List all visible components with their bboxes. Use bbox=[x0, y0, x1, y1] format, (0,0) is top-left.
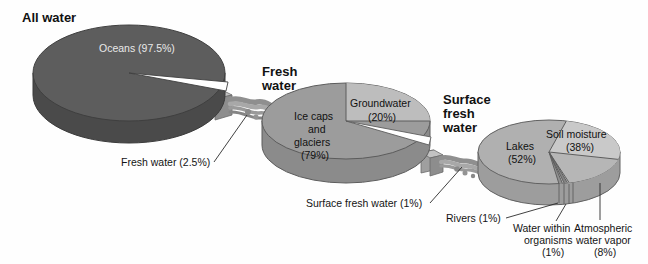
title-surface-l1: Surface bbox=[443, 92, 491, 107]
label-ice-caps-l3: glaciers bbox=[294, 136, 330, 148]
label-ice-caps-l4: (79%) bbox=[301, 149, 329, 161]
label-oceans: Oceans (97.5%) bbox=[99, 42, 175, 54]
label-ice-caps-l2: and bbox=[308, 123, 326, 135]
label-groundwater-l1: Groundwater bbox=[350, 97, 411, 109]
title-all-water: All water bbox=[22, 10, 76, 25]
pie-chart-diagram: Oceans (97.5%) All water Fresh water (2.… bbox=[0, 0, 648, 264]
water-distribution-figure: Oceans (97.5%) All water Fresh water (2.… bbox=[0, 0, 648, 264]
callout-label-vapor-l1: Atmospheric bbox=[574, 222, 632, 234]
title-fresh-water: Fresh water bbox=[261, 64, 297, 93]
title-surface-l3: water bbox=[442, 120, 477, 135]
callout-label-organisms-l3: (1%) bbox=[542, 246, 564, 258]
title-fresh-water-l1: Fresh bbox=[262, 64, 297, 79]
label-groundwater-l2: (20%) bbox=[368, 111, 396, 123]
callout-rivers: Rivers (1%) bbox=[446, 203, 558, 224]
title-fresh-water-l2: water bbox=[261, 78, 296, 93]
label-lakes-l2: (52%) bbox=[508, 153, 536, 165]
callout-label-vapor-l2: water vapor bbox=[575, 234, 631, 246]
callout-label-organisms-l2: organisms bbox=[524, 234, 572, 246]
callout-label-fresh-water: Fresh water (2.5%) bbox=[121, 156, 210, 168]
label-soil-moisture-l2: (38%) bbox=[566, 141, 594, 153]
pie-surface-fresh-water: Lakes (52%) Soil moisture (38%) bbox=[478, 118, 624, 205]
label-soil-moisture-l1: Soil moisture bbox=[546, 128, 607, 140]
label-ice-caps-l1: Ice caps bbox=[294, 110, 333, 122]
title-surface-l2: fresh bbox=[443, 106, 475, 121]
callout-water-within-organisms: Water within organisms (1%) bbox=[513, 204, 572, 258]
pie-all-water: Oceans (97.5%) bbox=[33, 25, 228, 143]
callout-label-vapor-l3: (8%) bbox=[594, 246, 616, 258]
title-surface-fresh-water: Surface fresh water bbox=[442, 92, 491, 135]
label-lakes-l1: Lakes bbox=[506, 140, 534, 152]
callout-label-rivers: Rivers (1%) bbox=[446, 212, 501, 224]
pie-fresh-water: Ice caps and glaciers (79%) Groundwater … bbox=[262, 83, 434, 183]
callout-label-organisms-l1: Water within bbox=[513, 222, 571, 234]
callout-label-surface-fresh-water: Surface fresh water (1%) bbox=[306, 197, 422, 209]
